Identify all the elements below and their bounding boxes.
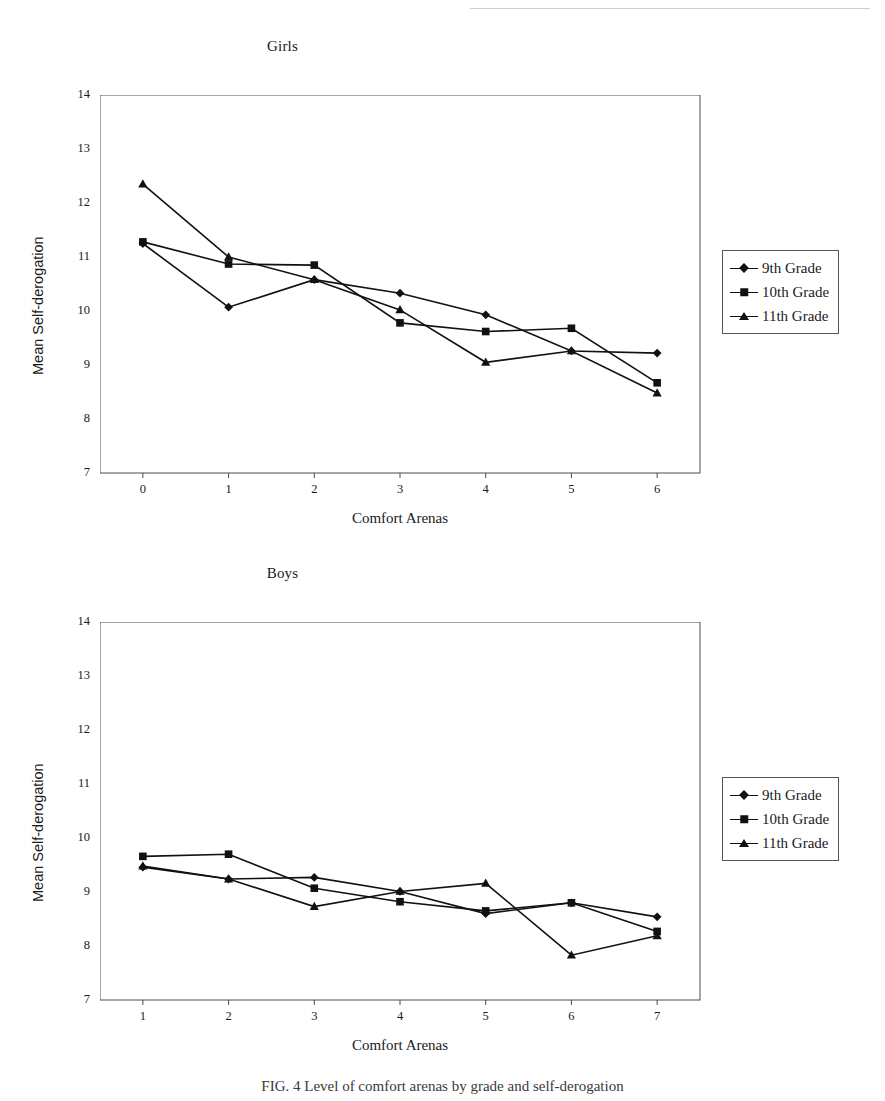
data-point-marker bbox=[568, 324, 576, 332]
series-11th-grade bbox=[138, 179, 661, 396]
x-tick-label: 5 bbox=[474, 1009, 498, 1024]
data-point-marker bbox=[482, 907, 490, 915]
plot-frame bbox=[100, 95, 700, 473]
data-point-marker bbox=[139, 853, 147, 861]
y-tick-label: 7 bbox=[66, 992, 90, 1007]
square-marker bbox=[729, 284, 759, 300]
plot-area-girls bbox=[100, 95, 740, 523]
data-point-marker bbox=[653, 349, 662, 358]
data-point-marker bbox=[481, 310, 490, 319]
chart-svg-boys bbox=[100, 622, 740, 1050]
x-tick-label: 6 bbox=[559, 1009, 583, 1024]
y-axis-label-girls: Mean Self-derogation bbox=[30, 236, 46, 375]
y-tick-label: 11 bbox=[66, 249, 90, 264]
chart-title-boys: Boys bbox=[0, 565, 725, 582]
data-point-marker bbox=[653, 379, 661, 387]
legend-label: 10th Grade bbox=[759, 811, 829, 828]
legend-marker bbox=[739, 263, 749, 273]
y-tick-label: 10 bbox=[66, 830, 90, 845]
header-rule bbox=[470, 8, 870, 9]
legend-marker bbox=[739, 312, 749, 320]
data-point-marker bbox=[653, 912, 662, 921]
diamond-marker bbox=[729, 787, 759, 803]
figure-caption: FIG. 4 Level of comfort arenas by grade … bbox=[0, 1078, 885, 1095]
x-tick-label: 1 bbox=[131, 1009, 155, 1024]
legend-label: 10th Grade bbox=[759, 284, 829, 301]
legend-boys: 9th Grade10th Grade11th Grade bbox=[722, 777, 839, 861]
x-tick-label: 5 bbox=[559, 482, 583, 497]
series-11th-grade bbox=[138, 861, 661, 958]
data-point-marker bbox=[568, 899, 576, 907]
y-tick-label: 7 bbox=[66, 465, 90, 480]
data-point-marker bbox=[482, 328, 490, 336]
data-point-marker bbox=[310, 261, 318, 269]
x-tick-label: 4 bbox=[474, 482, 498, 497]
y-tick-label: 11 bbox=[66, 776, 90, 791]
legend-item[interactable]: 10th Grade bbox=[729, 807, 829, 831]
series-line bbox=[143, 184, 657, 393]
legend-label: 9th Grade bbox=[759, 787, 822, 804]
y-tick-label: 13 bbox=[66, 141, 90, 156]
square-marker bbox=[729, 811, 759, 827]
legend-item[interactable]: 10th Grade bbox=[729, 280, 829, 304]
x-tick-label: 0 bbox=[131, 482, 155, 497]
data-point-marker bbox=[310, 884, 318, 892]
data-point-marker bbox=[139, 238, 147, 246]
legend-marker bbox=[740, 288, 748, 296]
y-tick-label: 13 bbox=[66, 668, 90, 683]
x-tick-label: 3 bbox=[388, 482, 412, 497]
legend-marker bbox=[739, 790, 749, 800]
y-tick-label: 8 bbox=[66, 411, 90, 426]
x-axis-label-boys: Comfort Arenas bbox=[100, 1037, 700, 1054]
y-tick-label: 12 bbox=[66, 195, 90, 210]
data-point-marker bbox=[310, 873, 319, 882]
legend-marker bbox=[739, 839, 749, 847]
legend-label: 9th Grade bbox=[759, 260, 822, 277]
data-point-marker bbox=[396, 898, 404, 906]
data-point-marker bbox=[138, 861, 147, 869]
y-tick-label: 9 bbox=[66, 884, 90, 899]
x-tick-label: 2 bbox=[302, 482, 326, 497]
y-tick-label: 10 bbox=[66, 303, 90, 318]
legend-item[interactable]: 9th Grade bbox=[729, 783, 829, 807]
x-tick-label: 2 bbox=[217, 1009, 241, 1024]
data-point-marker bbox=[225, 260, 233, 268]
y-tick-label: 14 bbox=[66, 614, 90, 629]
y-tick-label: 9 bbox=[66, 357, 90, 372]
legend-item[interactable]: 9th Grade bbox=[729, 256, 829, 280]
legend-item[interactable]: 11th Grade bbox=[729, 304, 829, 328]
x-tick-label: 6 bbox=[645, 482, 669, 497]
x-tick-label: 3 bbox=[302, 1009, 326, 1024]
legend-item[interactable]: 11th Grade bbox=[729, 831, 829, 855]
chart-title-girls: Girls bbox=[0, 38, 725, 55]
data-point-marker bbox=[138, 179, 147, 187]
plot-area-boys bbox=[100, 622, 740, 1050]
triangle-marker bbox=[729, 835, 759, 851]
x-axis-label-girls: Comfort Arenas bbox=[100, 510, 700, 527]
x-tick-label: 7 bbox=[645, 1009, 669, 1024]
triangle-marker bbox=[729, 308, 759, 324]
data-point-marker bbox=[396, 289, 405, 298]
data-point-marker bbox=[481, 879, 490, 887]
data-point-marker bbox=[225, 850, 233, 858]
diamond-marker bbox=[729, 260, 759, 276]
y-tick-label: 8 bbox=[66, 938, 90, 953]
x-tick-label: 1 bbox=[217, 482, 241, 497]
legend-girls: 9th Grade10th Grade11th Grade bbox=[722, 250, 839, 334]
y-tick-label: 14 bbox=[66, 87, 90, 102]
y-axis-label-boys: Mean Self-derogation bbox=[30, 763, 46, 902]
series-line bbox=[143, 244, 657, 354]
series-9th-grade bbox=[138, 239, 661, 357]
series-line bbox=[143, 866, 657, 955]
data-point-marker bbox=[396, 319, 404, 327]
chart-svg-girls bbox=[100, 95, 740, 523]
legend-label: 11th Grade bbox=[759, 308, 829, 325]
legend-marker bbox=[740, 815, 748, 823]
figure-page: Girls Mean Self-derogation Comfort Arena… bbox=[0, 0, 885, 1101]
plot-frame bbox=[100, 622, 700, 1000]
y-tick-label: 12 bbox=[66, 722, 90, 737]
legend-label: 11th Grade bbox=[759, 835, 829, 852]
x-tick-label: 4 bbox=[388, 1009, 412, 1024]
